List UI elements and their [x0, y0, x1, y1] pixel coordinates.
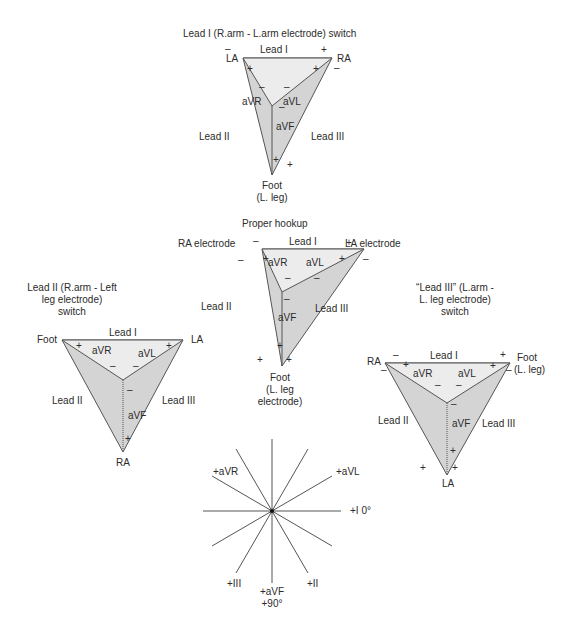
left-sign: – — [133, 361, 139, 371]
top-vertex-foot-sub: (L. leg) — [247, 192, 297, 204]
hexaxial-lines — [203, 439, 341, 583]
proper-vertex-foot: Foot — [258, 372, 302, 384]
left-avl: aVL — [138, 348, 156, 360]
top-sign: + — [287, 160, 293, 170]
left-vertex-ra: RA — [110, 457, 136, 469]
proper-sign: – — [285, 273, 291, 283]
right-sign: – — [456, 380, 462, 390]
top-sign: + — [321, 45, 327, 55]
right-lead-iii: Lead III — [482, 418, 515, 430]
proper-vertex-la: LA electrode — [345, 238, 401, 250]
right-title-line1: “Lead III” (L.arm - — [400, 282, 510, 294]
right-sign: + — [420, 463, 426, 473]
right-sign: – — [451, 399, 457, 409]
proper-sign: – — [314, 273, 320, 283]
left-sign: + — [125, 434, 131, 444]
proper-lead-iii: Lead III — [315, 303, 348, 315]
left-title-line1: Lead II (R.arm - Left — [12, 282, 132, 294]
proper-sign: – — [253, 236, 259, 246]
proper-sign: + — [257, 355, 263, 365]
proper-sign: + — [339, 254, 345, 264]
proper-sign: + — [263, 254, 269, 264]
right-avr: aVR — [413, 368, 432, 380]
proper-lead-ii: Lead II — [201, 301, 232, 313]
proper-sign: + — [346, 238, 352, 248]
proper-avl: aVL — [306, 257, 324, 269]
proper-title: Proper hookup — [242, 218, 308, 230]
left-title-line2: leg electrode) — [12, 294, 132, 306]
proper-lead-i: Lead I — [289, 236, 317, 248]
left-sign: – — [110, 361, 116, 371]
left-vertex-foot: Foot — [37, 334, 57, 346]
top-vertex-foot: Foot — [252, 180, 292, 192]
top-sign: – — [334, 63, 340, 73]
right-vertex-la: LA — [436, 478, 460, 490]
right-lead-i: Lead I — [430, 350, 458, 362]
right-sign: + — [500, 350, 506, 360]
left-lead-i: Lead I — [109, 327, 137, 339]
left-vertex-la: LA — [191, 334, 203, 346]
hex-avr: +aVR — [213, 466, 238, 478]
top-sign: – — [225, 44, 231, 54]
right-lead-ii: Lead II — [378, 415, 409, 427]
left-lead-iii: Lead III — [162, 395, 195, 407]
proper-sign: – — [238, 255, 244, 265]
left-lead-ii: Lead II — [52, 395, 83, 407]
right-sign: + — [450, 446, 456, 456]
right-vertex-ra: RA — [367, 356, 381, 368]
top-avl: aVL — [283, 96, 301, 108]
top-title: Lead I (R.arm - L.arm electrode) switch — [183, 28, 356, 40]
hex-lead-ii: +II — [307, 578, 318, 590]
hex-avl: +aVL — [336, 466, 360, 478]
left-title-line3: switch — [12, 306, 132, 318]
right-sign: – — [381, 365, 387, 375]
left-sign: – — [127, 385, 133, 395]
hex-lead-iii: +III — [227, 578, 241, 590]
hex-avf: +aVF — [254, 586, 290, 598]
top-vertex-la: LA — [226, 53, 238, 65]
right-sign: – — [506, 365, 512, 375]
top-lead-ii: Lead II — [199, 131, 230, 143]
right-sign: – — [435, 380, 441, 390]
left-avf: aVF — [128, 410, 146, 422]
right-title-line2: L. leg electrode) — [400, 294, 510, 306]
top-triangle — [243, 58, 332, 175]
top-avr: aVR — [242, 96, 261, 108]
proper-avf: aVF — [278, 312, 296, 324]
right-title-line3: switch — [400, 306, 510, 318]
hex-lead-i: +I 0° — [350, 505, 371, 517]
proper-avr: aVR — [268, 257, 287, 269]
right-sign: + — [403, 360, 409, 370]
top-sign: + — [247, 64, 253, 74]
left-avr: aVR — [92, 345, 111, 357]
right-vertex-foot: Foot — [517, 352, 537, 364]
proper-sign: – — [284, 294, 290, 304]
proper-vertex-foot-sub2: electrode) — [250, 396, 310, 408]
top-avf: aVF — [276, 121, 294, 133]
proper-vertex-ra: RA electrode — [178, 238, 235, 250]
left-sign: + — [76, 341, 82, 351]
right-vertex-foot-sub: (L. leg) — [514, 364, 545, 376]
top-sign: + — [273, 155, 279, 165]
top-sign: – — [259, 82, 265, 92]
right-sign: – — [393, 350, 399, 360]
proper-vertex-foot-sub1: (L. leg — [253, 384, 307, 396]
top-sign: – — [279, 102, 285, 112]
proper-sign: + — [286, 355, 292, 365]
top-lead-i: Lead I — [260, 44, 288, 56]
top-lead-iii: Lead III — [311, 131, 344, 143]
right-avf: aVF — [452, 418, 470, 430]
top-sign: + — [313, 64, 319, 74]
right-sign: + — [490, 361, 496, 371]
proper-sign: – — [363, 254, 369, 264]
hex-avf-deg: +90° — [254, 598, 290, 610]
right-sign: + — [452, 463, 458, 473]
proper-sign: + — [277, 341, 283, 351]
left-sign: + — [166, 341, 172, 351]
top-sign: – — [284, 82, 290, 92]
